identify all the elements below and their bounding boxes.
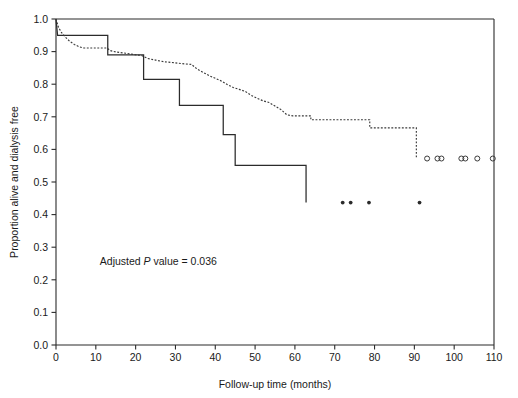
y-tick-label: 0.5 <box>33 176 48 188</box>
p-value-text-before: Adjusted <box>100 255 144 267</box>
x-axis-title: Follow-up time (months) <box>219 378 332 390</box>
y-tick-label: 0.3 <box>33 241 48 253</box>
y-tick-label: 0.9 <box>33 45 48 57</box>
x-tick-label: 70 <box>329 351 341 363</box>
kaplan-meier-figure: 0102030405060708090100110 0.00.10.20.30.… <box>0 0 518 398</box>
x-tick-label: 110 <box>486 351 503 363</box>
y-tick-label: 1.0 <box>33 13 48 25</box>
y-tick-label: 0.6 <box>33 143 48 155</box>
y-tick-label: 0.0 <box>33 339 48 351</box>
y-tick-label: 0.8 <box>33 78 48 90</box>
y-tick-label: 0.4 <box>33 208 48 220</box>
censor-filled-dot <box>341 201 345 205</box>
censor-filled-dot <box>349 201 353 205</box>
p-value-symbol: P <box>144 255 151 267</box>
x-tick-label: 80 <box>369 351 381 363</box>
censor-filled-dot <box>418 201 422 205</box>
x-tick-label: 50 <box>249 351 261 363</box>
x-tick-label: 30 <box>170 351 182 363</box>
y-tick-label: 0.2 <box>33 274 48 286</box>
x-tick-label: 90 <box>409 351 421 363</box>
x-tick-label: 100 <box>445 351 463 363</box>
x-tick-label: 60 <box>289 351 301 363</box>
y-axis-title: Proportion alive and dialysis free <box>8 106 20 258</box>
survival-chart-svg: 0102030405060708090100110 0.00.10.20.30.… <box>0 0 518 398</box>
x-tick-label: 20 <box>130 351 142 363</box>
adjusted-p-value-annotation: Adjusted P value = 0.036 <box>100 255 217 267</box>
y-tick-label: 0.1 <box>33 306 48 318</box>
censor-filled-dot <box>367 201 371 205</box>
x-tick-label: 10 <box>90 351 102 363</box>
y-tick-label: 0.7 <box>33 111 48 123</box>
x-tick-label: 0 <box>53 351 59 363</box>
x-tick-label: 40 <box>209 351 221 363</box>
p-value-text-after: value = 0.036 <box>151 255 217 267</box>
chart-background <box>0 0 518 398</box>
